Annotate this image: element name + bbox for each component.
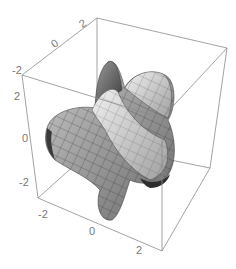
tick-label: 2: [136, 244, 142, 256]
tick-label: 0: [22, 132, 28, 144]
left-axis-ticks: 2 0 -2: [14, 90, 29, 188]
bottom-axis-ticks: -2 0 2: [38, 208, 142, 256]
tick-label: -2: [38, 208, 48, 220]
tick-label: 0: [49, 36, 61, 49]
top-axis-ticks: -2 0 2: [12, 16, 88, 76]
surface: [46, 61, 175, 220]
tick-label: -2: [12, 64, 22, 76]
tick-label: 2: [14, 90, 20, 102]
plot-3d: -2 0 2 2 0 -2 -2 0 2: [0, 0, 236, 269]
tick-label: 0: [89, 225, 95, 237]
tick-label: -2: [19, 176, 29, 188]
tick-label: 2: [77, 16, 89, 29]
